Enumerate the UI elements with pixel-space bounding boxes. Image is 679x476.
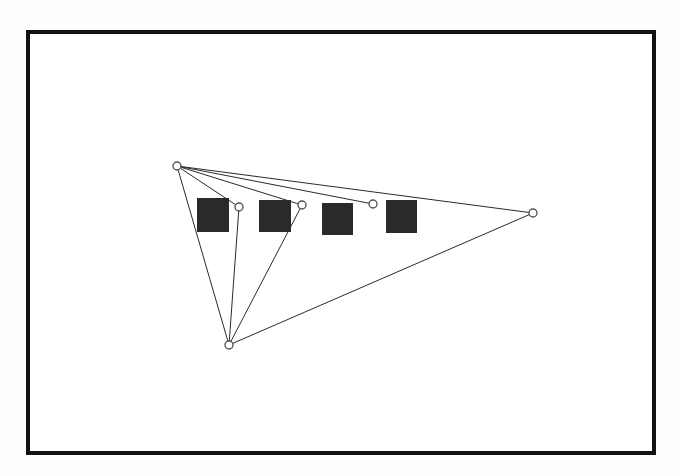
figure-border	[26, 30, 656, 455]
page-root	[0, 0, 679, 476]
